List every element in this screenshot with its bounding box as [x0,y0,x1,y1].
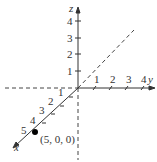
z-tick-1: 1 [67,65,73,77]
x-tick-3: 3 [39,104,45,116]
z-tick-3: 3 [67,32,73,44]
z-axis-label: z [68,2,74,14]
y-axis [78,86,155,90]
y-axis-label: y [147,73,153,85]
point-marker [32,129,38,135]
x-tick-5: 5 [21,124,27,136]
y-tick-4: 4 [141,73,147,85]
y-tick-1: 1 [94,73,100,85]
x-tick-2: 2 [48,95,54,107]
y-tick-3: 3 [126,73,132,85]
z-tick-2: 2 [67,48,73,60]
z-axis [75,7,81,88]
z-tick-4: 4 [67,15,73,27]
x-axis-label: x [13,141,19,153]
x-tick-4: 4 [30,114,36,126]
point-label: (5, 0, 0) [40,133,75,146]
coordinate-diagram: z 1 2 3 4 1 2 3 4 y 1 2 3 4 5 x (5, 0, 0… [0,0,157,162]
y-tick-2: 2 [110,73,116,85]
x-tick-1: 1 [58,86,64,98]
